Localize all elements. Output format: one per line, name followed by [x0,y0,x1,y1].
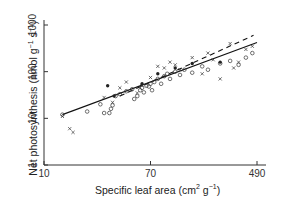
x-tick-label: 70 [145,168,157,179]
cross-marker [71,131,74,134]
circle-marker [168,77,172,81]
filled-marker [191,62,194,65]
circle-marker [251,51,255,55]
filled-marker [106,84,109,87]
cross-marker [168,61,171,64]
filled-marker [174,66,177,69]
circle-marker [159,82,163,86]
filled-marker [140,82,143,85]
cross-marker [229,42,232,45]
dashed-fit-line [120,35,254,96]
cross-marker [149,76,152,79]
circle-marker [99,102,103,106]
cross-marker [103,96,106,99]
circle-marker [165,72,169,76]
filled-marker [112,94,115,97]
x-tick-label: 490 [249,168,266,179]
circle-marker [178,73,182,77]
scatter-plot: 11010010001070490 [0,0,281,206]
circle-marker [142,91,146,95]
filled-marker [156,72,159,75]
cross-marker [201,72,204,75]
cross-marker [156,65,159,68]
circle-marker [132,97,136,101]
circle-marker [150,88,154,92]
cross-marker [191,56,194,59]
cross-marker [219,77,222,80]
circle-marker [109,107,113,111]
circle-marker [228,59,232,63]
cross-marker [163,66,166,69]
circle-marker [244,56,248,60]
x-axis-label: Specific leaf area (cm2 g−1) [95,183,220,196]
cross-marker [68,127,71,130]
cross-marker [125,80,128,83]
x-tick-label: 10 [38,168,50,179]
circle-marker [190,71,194,75]
cross-marker [244,48,247,51]
circle-marker [206,68,210,72]
filled-marker [218,60,221,63]
cross-marker [174,63,177,66]
circle-marker [108,111,112,115]
circle-marker [102,111,106,115]
circle-marker [85,110,89,114]
cross-marker [206,51,209,54]
cross-marker [251,45,254,48]
circle-marker [136,94,140,98]
y-axis-label: Net photosynthesis (nmol g−1 s−1) [27,13,40,183]
cross-marker [232,66,235,69]
circle-marker [200,65,204,69]
cross-marker [118,86,121,89]
